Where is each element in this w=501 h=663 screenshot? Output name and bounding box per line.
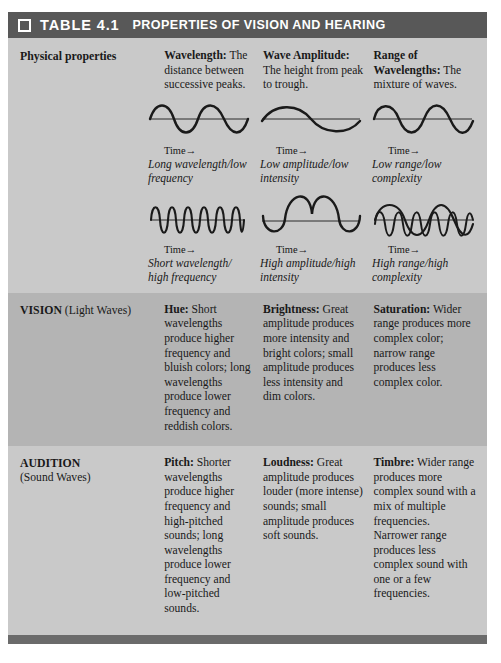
- wave-caption-short-wavelength: Short wavelength/ high frequency: [148, 256, 250, 284]
- wave-caption-low-range: Low range/low complexity: [372, 157, 477, 185]
- cell-vision-hue: Hue: Short wavelengths produce higher fr…: [152, 303, 263, 434]
- cell-physical-amplitude: Wave Amplitude: The height from peak to …: [263, 49, 374, 93]
- axis-label-time-5: Time→: [276, 243, 362, 255]
- wave-column-short-wavelength: Time→ Short wavelength/ high frequency: [148, 194, 260, 293]
- table-row-physical-properties: Physical properties Wavelength: The dist…: [8, 38, 487, 95]
- table-4-1: TABLE 4.1 PROPERTIES OF VISION AND HEARI…: [8, 12, 487, 644]
- high-range-wave: [372, 194, 476, 246]
- wave-column-amplitude: Time→ Low amplitude/low intensity: [260, 95, 372, 194]
- cell-vision-saturation: Saturation: Wider range produces more co…: [374, 303, 488, 434]
- wave-area-spacer: [20, 95, 148, 194]
- wave-caption-high-amplitude: High amplitude/high intensity: [260, 256, 362, 284]
- wave-column-wavelength: Time→ Long wavelength/low frequency: [148, 95, 260, 194]
- high-amplitude-wave: [260, 194, 364, 246]
- cell-audition-loudness: Loudness: Great amplitude produces loude…: [263, 456, 374, 617]
- table-figure-page: TABLE 4.1 PROPERTIES OF VISION AND HEARI…: [0, 0, 501, 663]
- axis-label-time-4: Time→: [164, 243, 250, 255]
- axis-label-time-6: Time→: [388, 243, 477, 255]
- axis-label-time-1: Time→: [164, 144, 250, 156]
- wave-column-high-amplitude: Time→ High amplitude/high intensity: [260, 194, 372, 293]
- wave-diagrams-area-2: Time→ Short wavelength/ high frequency T…: [8, 194, 487, 293]
- row-label-vision: VISION (Light Waves): [8, 303, 152, 434]
- wave-column-range: Time→ Low range/low complexity: [372, 95, 487, 194]
- table-bottom-rule: [8, 635, 487, 644]
- row-label-physical-properties: Physical properties: [8, 49, 152, 93]
- wave-caption-low-amplitude: Low amplitude/low intensity: [260, 157, 362, 185]
- low-amplitude-wave: [260, 95, 364, 147]
- low-range-wave: [372, 95, 476, 147]
- axis-label-time-3: Time→: [388, 144, 477, 156]
- cell-audition-timbre: Timbre: Wider range produces more comple…: [374, 456, 488, 617]
- cell-physical-range: Range of Wavelengths: The mixture of wav…: [374, 49, 488, 93]
- table-header-bar: TABLE 4.1 PROPERTIES OF VISION AND HEARI…: [8, 12, 487, 38]
- cell-vision-brightness: Brightness: Great amplitude produces mor…: [263, 303, 374, 434]
- wave-diagrams-area: Time→ Long wavelength/low frequency Time…: [8, 95, 487, 194]
- long-wavelength-wave: [148, 95, 252, 147]
- cell-audition-pitch: Pitch: Shorter wavelengths produce highe…: [152, 456, 263, 617]
- table-title: PROPERTIES OF VISION AND HEARING: [133, 18, 386, 32]
- table-number: TABLE 4.1: [40, 17, 120, 33]
- wave-column-high-range: Time→ High range/high complexity: [372, 194, 487, 293]
- wave-area-spacer-2: [20, 194, 148, 293]
- wave-caption-long-wavelength: Long wavelength/low frequency: [148, 157, 250, 185]
- row-label-audition: AUDITION (Sound Waves): [8, 456, 152, 617]
- short-wavelength-wave: [148, 194, 252, 246]
- table-row-audition: AUDITION (Sound Waves) Pitch: Shorter wa…: [8, 446, 487, 635]
- wave-caption-high-range: High range/high complexity: [372, 256, 477, 284]
- table-row-vision: VISION (Light Waves) Hue: Short waveleng…: [8, 293, 487, 446]
- square-outline-icon: [18, 19, 31, 32]
- axis-label-time-2: Time→: [276, 144, 362, 156]
- cell-physical-wavelength: Wavelength: The distance between success…: [152, 49, 263, 93]
